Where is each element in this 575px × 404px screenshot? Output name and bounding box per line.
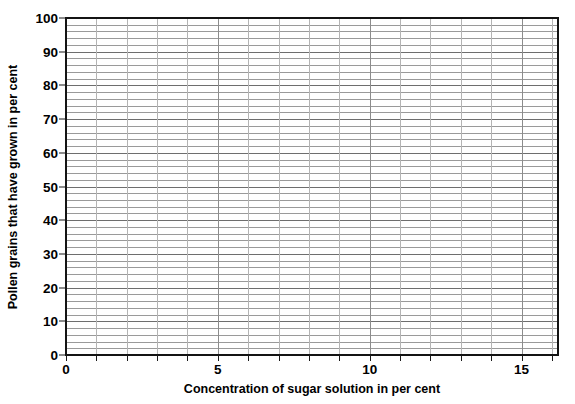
x-axis-tick-mark xyxy=(157,355,158,361)
gridline-horizontal-minor xyxy=(66,207,558,208)
y-axis-tick-label: 40 xyxy=(43,213,58,228)
x-axis-tick-mark xyxy=(552,355,553,361)
gridline-vertical-minor xyxy=(127,18,128,355)
gridline-horizontal-major xyxy=(66,321,558,322)
gridline-horizontal-minor xyxy=(66,180,558,181)
gridline-horizontal-minor xyxy=(66,133,558,134)
gridline-vertical-major xyxy=(370,18,371,355)
gridline-horizontal-minor xyxy=(66,99,558,100)
gridline-horizontal-minor xyxy=(66,126,558,127)
gridline-horizontal-minor xyxy=(66,294,558,295)
x-axis-tick-label: 5 xyxy=(214,362,222,377)
y-axis-title-container: Pollen grains that have grown in per cen… xyxy=(0,18,26,355)
gridline-horizontal-minor xyxy=(66,213,558,214)
gridline-horizontal-minor xyxy=(66,267,558,268)
gridline-horizontal-minor xyxy=(66,335,558,336)
gridline-horizontal-minor xyxy=(66,166,558,167)
y-axis-tick-label: 10 xyxy=(43,314,58,329)
gridline-vertical-minor xyxy=(309,18,310,355)
gridline-horizontal-minor xyxy=(66,348,558,349)
gridline-vertical-minor xyxy=(187,18,188,355)
gridline-vertical-minor xyxy=(461,18,462,355)
gridline-horizontal-minor xyxy=(66,79,558,80)
y-axis-tick-label: 30 xyxy=(43,246,58,261)
gridline-vertical-minor xyxy=(279,18,280,355)
gridline-horizontal-minor xyxy=(66,261,558,262)
gridline-vertical-minor xyxy=(157,18,158,355)
x-axis-tick-label: 0 xyxy=(62,362,70,377)
y-axis-tick-label: 90 xyxy=(43,44,58,59)
y-axis-tick-label: 80 xyxy=(43,78,58,93)
gridline-horizontal-minor xyxy=(66,112,558,113)
gridline-vertical-minor xyxy=(248,18,249,355)
gridline-horizontal-minor xyxy=(66,65,558,66)
x-axis-tick-mark xyxy=(187,355,188,361)
y-axis-tick-label: 100 xyxy=(35,11,58,26)
gridline-horizontal-minor xyxy=(66,31,558,32)
gridline-horizontal-minor xyxy=(66,274,558,275)
x-axis-tick-mark xyxy=(400,355,401,361)
gridline-horizontal-minor xyxy=(66,45,558,46)
y-axis-tick-label: 70 xyxy=(43,112,58,127)
gridline-horizontal-minor xyxy=(66,200,558,201)
x-axis-tick-mark xyxy=(309,355,310,361)
gridline-vertical-major xyxy=(218,18,219,355)
x-axis-tick-mark xyxy=(430,355,431,361)
gridline-horizontal-minor xyxy=(66,58,558,59)
gridline-vertical-minor xyxy=(430,18,431,355)
gridline-vertical-minor xyxy=(491,18,492,355)
gridline-horizontal-minor xyxy=(66,328,558,329)
gridline-horizontal-minor xyxy=(66,72,558,73)
x-axis-tick-mark xyxy=(522,355,523,361)
gridline-vertical-minor xyxy=(339,18,340,355)
gridline-horizontal-minor xyxy=(66,25,558,26)
gridline-horizontal-major xyxy=(66,187,558,188)
gridline-vertical-major xyxy=(522,18,523,355)
gridline-horizontal-major xyxy=(66,153,558,154)
x-axis-tick-mark xyxy=(279,355,280,361)
x-axis-tick-mark xyxy=(96,355,97,361)
axis-spine-left xyxy=(65,17,67,356)
gridline-horizontal-major xyxy=(66,288,558,289)
y-axis-tick-label: 60 xyxy=(43,145,58,160)
gridline-horizontal-minor xyxy=(66,193,558,194)
chart-figure: Pollen grains that have grown in per cen… xyxy=(0,0,575,404)
gridline-horizontal-minor xyxy=(66,308,558,309)
gridline-vertical-minor xyxy=(96,18,97,355)
gridline-horizontal-major xyxy=(66,119,558,120)
x-axis-tick-mark xyxy=(339,355,340,361)
gridline-horizontal-major xyxy=(66,220,558,221)
gridline-horizontal-minor xyxy=(66,247,558,248)
x-axis-tick-mark xyxy=(218,355,219,361)
gridline-horizontal-minor xyxy=(66,38,558,39)
gridline-horizontal-minor xyxy=(66,173,558,174)
gridline-horizontal-minor xyxy=(66,106,558,107)
gridline-horizontal-minor xyxy=(66,92,558,93)
x-axis-tick-mark xyxy=(370,355,371,361)
gridline-vertical-minor xyxy=(552,18,553,355)
x-axis-tick-mark xyxy=(66,355,67,361)
y-axis-tick-labels: 0102030405060708090100 xyxy=(26,0,60,404)
gridline-horizontal-minor xyxy=(66,240,558,241)
y-axis-title: Pollen grains that have grown in per cen… xyxy=(6,64,20,309)
axis-spine-right xyxy=(557,17,559,356)
gridline-horizontal-minor xyxy=(66,227,558,228)
x-axis-tick-mark xyxy=(127,355,128,361)
x-axis-tick-mark xyxy=(491,355,492,361)
plot-area xyxy=(66,18,558,355)
y-axis-tick-label: 20 xyxy=(43,280,58,295)
gridline-vertical-minor xyxy=(400,18,401,355)
x-axis-tick-label: 15 xyxy=(514,362,529,377)
gridline-horizontal-minor xyxy=(66,301,558,302)
x-axis-tick-mark xyxy=(248,355,249,361)
x-axis-tick-mark xyxy=(461,355,462,361)
gridline-horizontal-major xyxy=(66,85,558,86)
gridline-horizontal-minor xyxy=(66,315,558,316)
gridline-horizontal-major xyxy=(66,254,558,255)
gridline-horizontal-minor xyxy=(66,342,558,343)
axis-spine-top xyxy=(65,17,559,19)
gridline-horizontal-minor xyxy=(66,160,558,161)
gridline-horizontal-minor xyxy=(66,146,558,147)
gridline-horizontal-minor xyxy=(66,234,558,235)
x-axis-tick-label: 10 xyxy=(362,362,377,377)
